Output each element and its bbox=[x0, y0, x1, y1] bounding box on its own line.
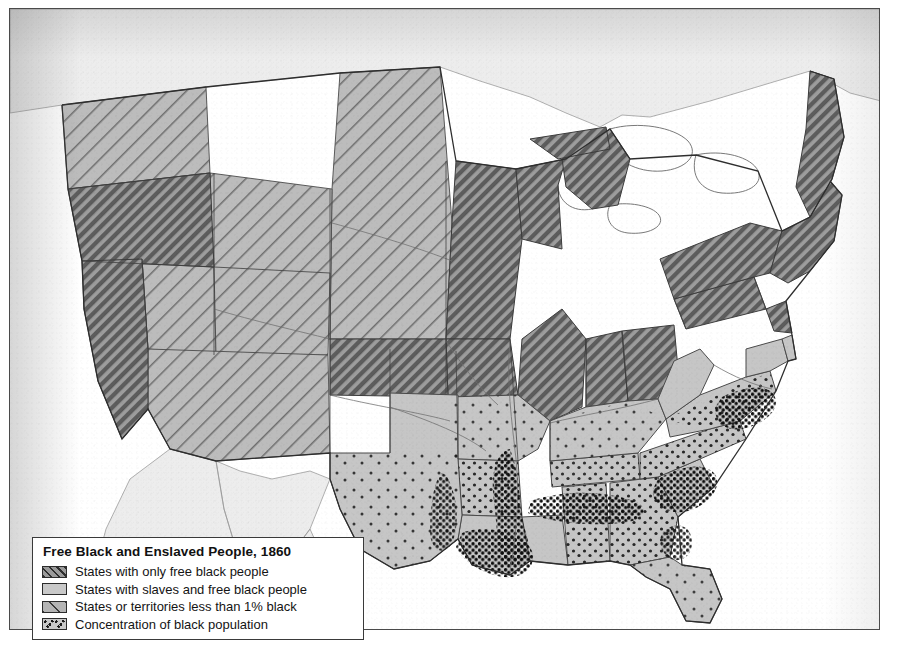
map-legend: Free Black and Enslaved People, 1860 Sta… bbox=[32, 537, 364, 640]
legend-item-slave-states: States with slaves and free black people bbox=[42, 581, 355, 599]
legend-item-territories: States or territories less than 1% black bbox=[42, 598, 355, 616]
map-frame: Free Black and Enslaved People, 1860 Sta… bbox=[9, 8, 880, 630]
state-indiana bbox=[586, 331, 628, 407]
legend-swatch-slave-states-icon bbox=[42, 583, 67, 595]
legend-item-concentration: Concentration of black population bbox=[42, 616, 355, 634]
legend-item-free-states: States with only free black people bbox=[42, 563, 355, 581]
new-mexico-territory bbox=[148, 349, 330, 461]
map-screenshot: Free Black and Enslaved People, 1860 Sta… bbox=[0, 0, 899, 657]
legend-label-free-states: States with only free black people bbox=[75, 564, 269, 579]
historical-map-graphic bbox=[10, 9, 879, 629]
legend-swatch-territories-icon bbox=[42, 601, 67, 613]
legend-swatch-concentration-icon bbox=[42, 618, 67, 630]
legend-swatch-free-states-icon bbox=[42, 566, 67, 578]
dakota-territory bbox=[330, 67, 452, 339]
state-oregon bbox=[68, 173, 214, 267]
legend-label-slave-states: States with slaves and free black people bbox=[75, 582, 307, 597]
state-kansas bbox=[330, 339, 448, 397]
utah-nevada-territory bbox=[142, 259, 216, 355]
state-minnesota bbox=[446, 161, 522, 339]
legend-label-territories: States or territories less than 1% black bbox=[75, 599, 297, 614]
state-wisconsin bbox=[516, 159, 566, 249]
map-viewport bbox=[10, 9, 879, 629]
legend-title: Free Black and Enslaved People, 1860 bbox=[43, 544, 355, 559]
legend-label-concentration: Concentration of black population bbox=[75, 617, 268, 632]
colorado-territory bbox=[214, 267, 330, 355]
